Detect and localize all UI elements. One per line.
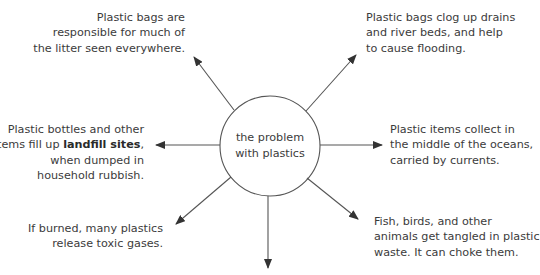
node-litter-line-3: the litter seen everywhere. xyxy=(33,41,185,56)
arrow-top-right xyxy=(306,55,356,111)
arrow-bottom-left xyxy=(176,177,231,224)
arrow-top-left xyxy=(194,57,234,110)
center-label: the problem with plastics xyxy=(220,130,320,161)
node-landfill-line-1: Plastic bottles and other xyxy=(0,122,144,137)
node-litter-line-1: Plastic bags are xyxy=(33,10,185,25)
node-animals-line-2: animals get tangled in plastic xyxy=(374,229,540,244)
node-animals-line-3: waste. It can choke them. xyxy=(374,245,540,260)
node-landfill-line-2: items fill up landfill sites, xyxy=(0,137,144,152)
arrow-bottom-right xyxy=(307,178,358,219)
node-oceans: Plastic items collect in the middle of t… xyxy=(390,122,533,168)
node-litter: Plastic bags are responsible for much of… xyxy=(33,10,185,56)
node-oceans-line-1: Plastic items collect in xyxy=(390,122,533,137)
node-flooding-line-3: to cause flooding. xyxy=(366,41,515,56)
node-oceans-line-2: the middle of the oceans, xyxy=(390,137,533,152)
node-landfill-line-2-pre: items fill up xyxy=(0,138,63,151)
node-flooding-line-1: Plastic bags clog up drains xyxy=(366,10,515,25)
node-flooding: Plastic bags clog up drains and river be… xyxy=(366,10,515,56)
node-litter-line-2: responsible for much of xyxy=(33,25,185,40)
node-toxic: If burned, many plastics release toxic g… xyxy=(28,221,163,252)
node-toxic-line-2: release toxic gases. xyxy=(28,236,163,251)
center-line-2: with plastics xyxy=(220,146,320,162)
node-animals: Fish, birds, and other animals get tangl… xyxy=(374,214,540,260)
landfill-sites-bold: landfill sites xyxy=(63,138,140,151)
node-oceans-line-3: carried by currents. xyxy=(390,153,533,168)
node-toxic-line-1: If burned, many plastics xyxy=(28,221,163,236)
node-flooding-line-2: and river beds, and help xyxy=(366,25,515,40)
node-landfill-line-2-post: , xyxy=(140,138,144,151)
center-line-1: the problem xyxy=(220,130,320,146)
node-landfill-line-3: when dumped in xyxy=(0,153,144,168)
node-animals-line-1: Fish, birds, and other xyxy=(374,214,540,229)
node-landfill-line-4: household rubbish. xyxy=(0,168,144,183)
node-landfill: Plastic bottles and other items fill up … xyxy=(0,122,144,183)
